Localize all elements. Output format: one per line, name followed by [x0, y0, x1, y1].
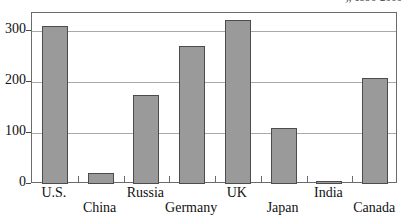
bar	[271, 128, 297, 184]
bar	[225, 20, 251, 184]
bar	[179, 46, 205, 184]
bar	[42, 26, 68, 184]
x-axis-label: UK	[192, 185, 282, 200]
x-axis-label: Canada	[329, 200, 406, 215]
x-axis-label: Russia	[100, 185, 190, 200]
bar-chart: ), 1990-2000 0100200300 U.S.ChinaRussiaG…	[0, 0, 406, 218]
y-axis-label: 100	[0, 124, 26, 138]
x-axis-tick	[124, 176, 125, 182]
x-axis-tick	[215, 176, 216, 182]
bar	[316, 181, 342, 184]
x-axis-label: India	[283, 185, 373, 200]
x-axis-tick	[78, 176, 79, 182]
x-axis-label: China	[55, 200, 145, 215]
x-axis-tick	[169, 176, 170, 182]
x-axis-label: Germany	[146, 200, 236, 215]
gridline	[32, 82, 396, 83]
bar	[88, 173, 114, 184]
x-axis-tick	[352, 176, 353, 182]
gridline	[32, 31, 396, 32]
x-axis-label: U.S.	[9, 185, 99, 200]
bar	[362, 78, 388, 184]
y-axis-label: 200	[0, 73, 26, 87]
y-axis-tick	[26, 183, 31, 184]
x-axis-label: Japan	[238, 200, 328, 215]
plot-area	[31, 12, 397, 183]
gridline	[32, 133, 396, 134]
chart-title: ), 1990-2000	[0, 0, 406, 3]
y-axis-label: 300	[0, 22, 26, 36]
bar	[133, 95, 159, 184]
x-axis-tick	[307, 176, 308, 182]
x-axis-tick	[261, 176, 262, 182]
